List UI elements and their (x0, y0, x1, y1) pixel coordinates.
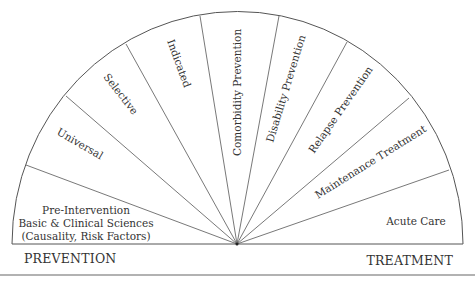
segment-label-acute-care: Acute Care (385, 215, 446, 227)
segment-label-pre-intervention: Pre-Intervention (42, 204, 130, 216)
segment-label-indicated: Indicated (165, 38, 194, 90)
footer-treatment-label: TREATMENT (366, 253, 453, 268)
segment-sublabel-sciences: Basic & Clinical Sciences (18, 217, 153, 229)
footer-prevention-label: PREVENTION (24, 251, 117, 266)
segment-label-selective: Selective (101, 71, 140, 117)
center-point (236, 243, 239, 246)
segment-sublabel-causality: (Causality, Risk Factors) (21, 230, 150, 242)
spectrum-diagram: Pre-Intervention Basic & Clinical Scienc… (0, 0, 475, 283)
segment-label-universal: Universal (55, 125, 106, 161)
segment-label-comorbidity-prevention: Comorbidity Prevention (231, 29, 243, 156)
segment-label-relapse-prevention: Relapse Prevention (306, 63, 375, 155)
